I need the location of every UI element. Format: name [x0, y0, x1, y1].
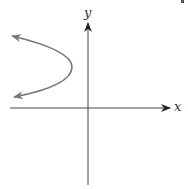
- x-axis-label: x: [174, 100, 181, 113]
- coordinate-plane-figure: y x: [0, 0, 188, 189]
- parabola-upper-branch: [12, 36, 72, 67]
- parabola-lower-branch: [14, 67, 72, 97]
- y-axis-label: y: [84, 6, 91, 19]
- corner-artifact-mark: [181, 0, 184, 3]
- axes-and-curve-svg: [0, 0, 188, 189]
